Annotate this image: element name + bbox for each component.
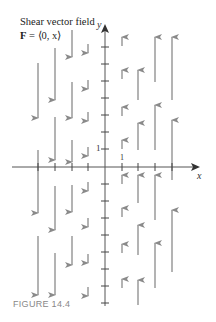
x-tick-label-1: 1 (120, 153, 124, 162)
figure-title: Shear vector field (20, 16, 95, 28)
figure-caption: FIGURE 14.4 (13, 299, 70, 309)
field-formula: F = ⟨0, x⟩ (20, 29, 61, 41)
x-axis-label: x (197, 170, 201, 181)
field-formula-rest: = ⟨0, x⟩ (26, 30, 61, 41)
vector-field-plot (0, 0, 216, 322)
y-tick-label-1: 1 (96, 143, 101, 153)
y-axis-label: y (97, 19, 101, 30)
